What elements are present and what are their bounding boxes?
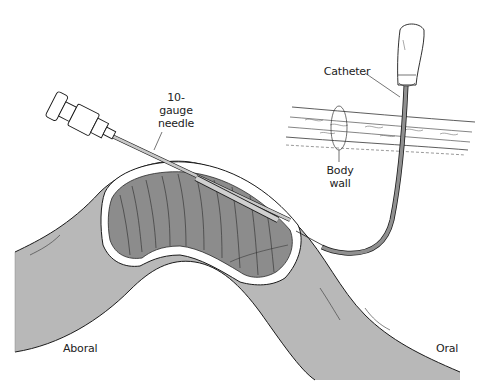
- illustration: [0, 0, 484, 389]
- label-needle-line2: gauge: [153, 104, 199, 117]
- label-catheter: Catheter: [322, 65, 372, 78]
- label-aboral: Aboral: [63, 342, 103, 355]
- catheter: [296, 24, 424, 253]
- label-oral: Oral: [436, 342, 466, 355]
- body-wall: [286, 106, 475, 162]
- label-body-wall: Body wall: [322, 164, 358, 190]
- label-needle-line1: 10-: [153, 91, 199, 104]
- label-body-wall-line1: Body: [322, 164, 358, 177]
- label-needle: 10- gauge needle: [153, 91, 199, 130]
- label-body-wall-line2: wall: [322, 177, 358, 190]
- label-needle-line3: needle: [153, 117, 199, 130]
- diagram: 10- gauge needle Catheter Body wall Abor…: [0, 0, 484, 389]
